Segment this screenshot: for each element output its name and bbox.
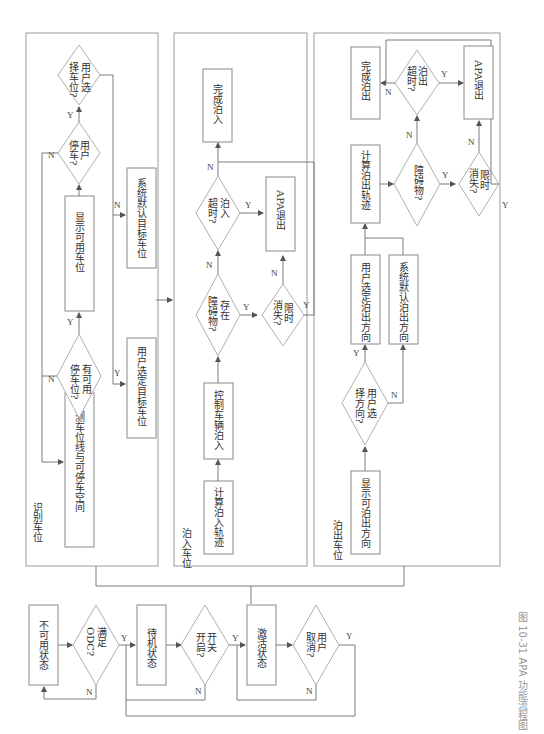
svg-text:存在: 存在 — [219, 299, 230, 320]
panel-park-in-title: 泊入车位 — [181, 528, 192, 568]
svg-text:系统默认泊出方向: 系统默认泊出方向 — [398, 262, 409, 342]
svg-text:超时?: 超时? — [207, 197, 218, 223]
svg-text:Y: Y — [114, 368, 121, 378]
svg-text:N: N — [206, 260, 213, 270]
svg-text:N: N — [114, 200, 121, 210]
svg-text:择方向?: 择方向? — [354, 387, 365, 423]
svg-text:障碍物?: 障碍物? — [207, 295, 218, 331]
svg-text:Y: Y — [232, 633, 239, 643]
svg-text:泊出: 泊出 — [417, 66, 428, 86]
svg-text:满足: 满足 — [96, 627, 107, 648]
svg-text:APA退出: APA退出 — [473, 59, 484, 100]
svg-text:Y: Y — [353, 348, 360, 358]
svg-text:系统默认目标车位: 系统默认目标车位 — [136, 178, 147, 258]
svg-text:计算泊出轨迹: 计算泊出轨迹 — [360, 149, 371, 211]
svg-text:N: N — [271, 268, 278, 278]
svg-text:消失?: 消失? — [272, 299, 283, 325]
svg-text:N: N — [306, 686, 313, 696]
svg-text:用户选定目标车位: 用户选定目标车位 — [136, 346, 147, 426]
svg-text:显示可泊出方向: 显示可泊出方向 — [360, 478, 371, 548]
svg-text:消失?: 消失? — [468, 167, 479, 193]
panels-bus-line — [96, 566, 404, 586]
svg-text:Y: Y — [67, 110, 74, 120]
svg-text:N: N — [391, 390, 398, 400]
svg-text:超时?: 超时? — [406, 65, 417, 91]
svg-text:Y: Y — [346, 631, 353, 641]
svg-text:APA退出: APA退出 — [275, 189, 286, 230]
svg-text:用户选定泊出方向: 用户选定泊出方向 — [360, 262, 371, 342]
svg-text:完成泊出: 完成泊出 — [360, 60, 371, 101]
svg-text:N: N — [468, 137, 475, 147]
svg-text:开启?: 开启? — [195, 632, 206, 657]
svg-text:开关: 开关 — [206, 632, 217, 653]
svg-text:N: N — [207, 162, 214, 172]
panel-park-out-title: 泊出车位 — [332, 520, 343, 560]
svg-text:Y: Y — [67, 317, 74, 327]
svg-text:用户: 用户 — [316, 632, 327, 653]
svg-text:N: N — [385, 87, 392, 97]
panel-identify-title: 识别车位 — [32, 502, 43, 542]
svg-text:用户选: 用户选 — [366, 388, 377, 419]
svg-text:Y: Y — [441, 69, 448, 79]
svg-text:控制车辆泊入: 控制车辆泊入 — [213, 389, 224, 450]
svg-text:N: N — [406, 130, 413, 140]
svg-text:显示可用车位: 显示可用车位 — [74, 212, 85, 272]
svg-text:用户选: 用户选 — [80, 62, 91, 93]
svg-text:完成泊入: 完成泊入 — [212, 83, 223, 124]
svg-text:Y: Y — [442, 170, 449, 180]
svg-text:限时: 限时 — [479, 170, 490, 190]
svg-text:Y: Y — [243, 302, 250, 312]
svg-text:计算泊入轨迹: 计算泊入轨迹 — [213, 486, 224, 548]
svg-text:有可用: 有可用 — [81, 363, 92, 395]
svg-text:择车位?: 择车位? — [68, 61, 79, 97]
svg-text:停车位?: 停车位? — [69, 363, 80, 399]
figure-caption: 图 10-31 APA 功能流程图 — [517, 612, 528, 731]
svg-text:不可用状态: 不可用状态 — [38, 620, 49, 670]
svg-text:停车?: 停车? — [68, 139, 79, 165]
svg-text:Y: Y — [245, 200, 252, 210]
apa-flowchart: 识别车位 泊入车位 泊出车位 不可用状态 满足 ODC? N Y 待机状态 开关… — [0, 0, 544, 734]
svg-text:Y: Y — [303, 300, 310, 310]
svg-text:泊入: 泊入 — [219, 198, 230, 218]
svg-text:待机状态: 待机状态 — [146, 627, 157, 668]
svg-text:Y: Y — [121, 633, 128, 643]
svg-text:ODC?: ODC? — [85, 627, 96, 656]
svg-text:激活状态: 激活状态 — [256, 627, 267, 668]
svg-text:N: N — [48, 150, 55, 160]
svg-text:N: N — [195, 686, 202, 696]
svg-text:限时: 限时 — [283, 303, 294, 323]
svg-text:障碍物?: 障碍物? — [413, 164, 424, 200]
svg-text:取消?: 取消? — [305, 632, 316, 657]
svg-text:Y: Y — [502, 200, 509, 210]
svg-text:N: N — [86, 687, 93, 697]
svg-text:用户: 用户 — [79, 140, 90, 161]
